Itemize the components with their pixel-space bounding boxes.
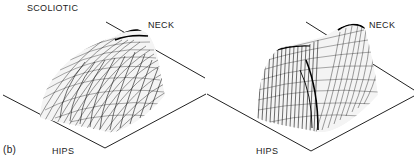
panel-letter: (b)	[3, 144, 16, 155]
right-neck-label: NECK	[369, 20, 395, 30]
condition-label: SCOLIOTIC	[27, 3, 78, 13]
right-plot-surface	[257, 24, 378, 133]
scoliotic-figure-panel-b: SCOLIOTIC NECK NECK (b) HIPS HIPS	[0, 0, 414, 159]
left-hips-label: HIPS	[52, 146, 74, 156]
surface-plots-canvas	[0, 0, 414, 159]
right-hips-label: HIPS	[256, 146, 278, 156]
left-neck-label: NECK	[148, 20, 174, 30]
left-plot-surface	[38, 29, 166, 133]
